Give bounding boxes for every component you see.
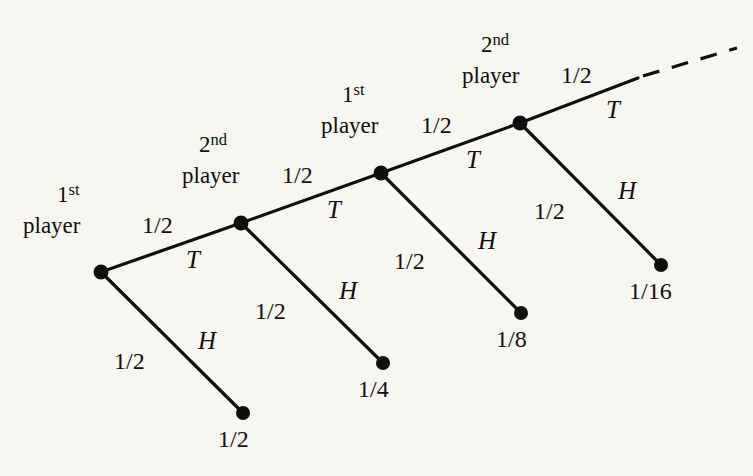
tree-leaf-node [236, 406, 250, 420]
stage-ordinal-number-1: 1 [57, 182, 69, 207]
leaf-value-4: 1/16 [629, 279, 672, 303]
tree-node [513, 116, 528, 131]
edge-heads-1 [101, 272, 243, 413]
stage-word-1: player [23, 214, 80, 237]
tree-node [234, 216, 249, 231]
branch-prob-heads-3: 1/2 [394, 249, 425, 273]
stage-word-2: player [182, 164, 239, 187]
continuation-dashed-line [643, 48, 737, 76]
probability-tree-figure: 1st player 1/2 T 1/2 H 2nd player 1/2 T … [0, 0, 753, 476]
outcome-label-tails-1: T [186, 247, 200, 272]
outcome-label-tails-3: T [466, 147, 480, 172]
outcome-label-heads-2: H [339, 278, 357, 303]
stage-ordinal-number-2: 2 [199, 132, 211, 157]
tree-leaf-node [514, 306, 528, 320]
edge-heads-3 [381, 173, 521, 313]
outcome-label-tails-4: T [606, 97, 620, 122]
outcome-label-heads-3: H [478, 228, 496, 253]
stage-ordinal-number-3: 1 [342, 82, 354, 107]
branch-prob-tails-4: 1/2 [561, 63, 592, 87]
leaf-value-2: 1/4 [358, 377, 389, 401]
stage-ordinal-2: 2nd [199, 133, 227, 156]
branch-prob-tails-3: 1/2 [421, 113, 452, 137]
stage-ordinal-suffix-2: nd [211, 130, 228, 149]
branch-prob-tails-1: 1/2 [142, 213, 173, 237]
outcome-label-heads-4: H [618, 178, 636, 203]
stage-ordinal-4: 2nd [481, 33, 509, 56]
tree-node [374, 166, 389, 181]
outcome-label-tails-2: T [327, 197, 341, 222]
stage-ordinal-suffix-3: st [354, 80, 365, 99]
leaf-value-1: 1/2 [218, 427, 249, 451]
stage-ordinal-3: 1st [342, 83, 365, 106]
branch-prob-tails-2: 1/2 [282, 163, 313, 187]
tree-leaf-node [376, 356, 390, 370]
stage-ordinal-1: 1st [57, 183, 80, 206]
leaf-value-3: 1/8 [496, 327, 527, 351]
edge-heads-2 [241, 223, 383, 363]
branch-prob-heads-1: 1/2 [114, 349, 145, 373]
stage-word-3: player [321, 114, 378, 137]
branch-prob-heads-2: 1/2 [255, 299, 286, 323]
stage-ordinal-suffix-1: st [69, 180, 80, 199]
stage-word-4: player [462, 64, 519, 87]
branch-prob-heads-4: 1/2 [534, 199, 565, 223]
stage-ordinal-suffix-4: nd [493, 30, 510, 49]
outcome-label-heads-1: H [198, 328, 216, 353]
edge-heads-4 [520, 123, 661, 265]
tree-node [94, 265, 109, 280]
stage-ordinal-number-4: 2 [481, 32, 493, 57]
tree-leaf-node [654, 258, 668, 272]
tree-graphics [0, 0, 753, 476]
